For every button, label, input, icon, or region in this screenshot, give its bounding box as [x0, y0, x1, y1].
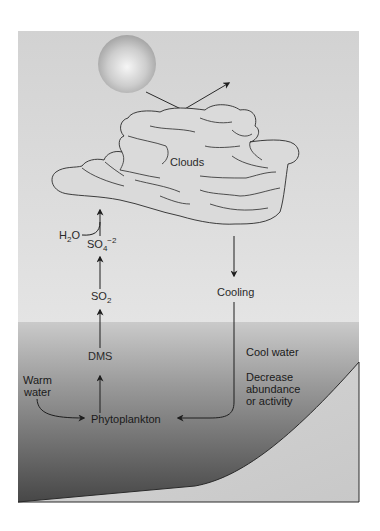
- effect-line2: abundance: [246, 383, 300, 395]
- phytoplankton-label: Phytoplankton: [91, 413, 161, 425]
- warm-water-label: Warm water: [23, 374, 55, 398]
- clouds-label: Clouds: [170, 156, 205, 168]
- warm-water-line1: Warm: [23, 374, 52, 386]
- so4-subscript: 4: [103, 244, 108, 253]
- sun-icon: [98, 35, 156, 93]
- h2o-h: H: [59, 229, 67, 241]
- so4-main: SO: [87, 238, 103, 250]
- dms-label: DMS: [88, 350, 112, 362]
- so2-subscript: 2: [107, 296, 112, 305]
- warm-water-line2: water: [23, 386, 51, 398]
- so2-main: SO: [91, 290, 107, 302]
- so4-superscript: −2: [107, 236, 117, 245]
- effect-line3: or activity: [246, 395, 293, 407]
- h2o-o: O: [71, 229, 80, 241]
- cool-water-label: Cool water: [246, 346, 299, 358]
- dms-feedback-diagram: Clouds DMS SO2 SO4−2 H2O Cooling Cool wa…: [0, 0, 380, 531]
- effect-line1: Decrease: [246, 371, 293, 383]
- cooling-label: Cooling: [217, 286, 254, 298]
